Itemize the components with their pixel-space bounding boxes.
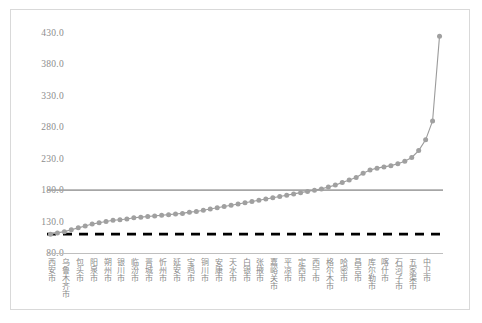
data-point <box>83 223 88 228</box>
x-axis-category-label: 忻州市 <box>158 258 166 282</box>
data-point <box>298 190 303 195</box>
x-axis-category-label: 平凉市 <box>283 258 291 282</box>
x-axis-category-label: 白银市 <box>241 258 249 282</box>
x-axis-category-label: 阳泉市 <box>88 258 96 282</box>
data-point <box>312 188 317 193</box>
data-point <box>243 200 248 205</box>
data-point <box>347 178 352 183</box>
data-point <box>340 180 345 185</box>
data-point <box>354 175 359 180</box>
data-point <box>180 211 185 216</box>
x-axis-category-label: 定西市 <box>297 258 305 282</box>
x-axis-category-label: 包头市 <box>74 258 82 282</box>
data-point <box>423 137 428 142</box>
data-point <box>111 218 116 223</box>
data-point <box>256 198 261 203</box>
data-point <box>388 163 393 168</box>
data-point <box>402 159 407 164</box>
x-axis-category-label: 张掖市 <box>255 258 263 282</box>
data-point <box>159 213 164 218</box>
data-point <box>236 201 241 206</box>
series-markers <box>48 34 442 237</box>
x-axis-category-label: 中卫市 <box>422 258 430 282</box>
data-point <box>305 189 310 194</box>
data-point <box>55 230 60 235</box>
data-point <box>187 210 192 215</box>
x-axis-category-label: 哈密市 <box>338 258 346 282</box>
x-axis-category-label: 安康市 <box>213 258 221 282</box>
x-axis-category-label: 库尔勒市 <box>366 258 374 290</box>
data-point <box>430 119 435 124</box>
data-point <box>138 215 143 220</box>
data-point <box>361 171 366 176</box>
x-axis-category-label: 天水市 <box>227 258 235 282</box>
data-point <box>375 166 380 171</box>
data-point <box>48 232 53 237</box>
x-axis-category-label: 石河子市 <box>394 258 402 290</box>
data-point <box>263 196 268 201</box>
x-axis-category-label: 喀什市 <box>380 258 388 282</box>
data-point <box>215 205 220 210</box>
data-point <box>284 193 289 198</box>
x-axis-category-label: 嘉峪关市 <box>269 258 277 290</box>
x-axis-category-label: 朔州市 <box>102 258 110 282</box>
data-point <box>90 222 95 227</box>
data-point <box>208 207 213 212</box>
data-point <box>131 215 136 220</box>
data-point <box>291 191 296 196</box>
data-point <box>62 229 67 234</box>
data-point <box>152 213 157 218</box>
data-point <box>437 34 442 39</box>
data-point <box>229 203 234 208</box>
x-axis-category-label: 乌鲁木齐市 <box>60 258 68 298</box>
data-point <box>277 194 282 199</box>
x-axis-category-label: 晋城市 <box>144 258 152 282</box>
data-point <box>69 227 74 232</box>
data-point <box>104 219 109 224</box>
x-axis-category-label: 格尔木市 <box>324 258 332 290</box>
x-axis-category-label: 昌吉市 <box>352 258 360 282</box>
data-point <box>76 225 81 230</box>
data-point <box>333 183 338 188</box>
data-point <box>270 195 275 200</box>
x-axis-category-label: 铜川市 <box>199 258 207 282</box>
data-point <box>319 186 324 191</box>
x-axis-category-label: 西宁市 <box>310 258 318 282</box>
data-point <box>166 212 171 217</box>
data-point <box>326 185 331 190</box>
data-point <box>416 148 421 153</box>
data-point <box>117 217 122 222</box>
data-point <box>124 217 129 222</box>
data-point <box>395 161 400 166</box>
x-axis-category-label: 延安市 <box>172 258 180 282</box>
x-axis-category-label: 临汾市 <box>130 258 138 282</box>
data-point <box>249 199 254 204</box>
data-point <box>368 168 373 173</box>
data-point <box>145 214 150 219</box>
x-axis-category-label: 西安市 <box>46 258 54 282</box>
reference-lines <box>47 190 443 234</box>
data-point <box>381 164 386 169</box>
data-point <box>409 155 414 160</box>
data-point <box>97 220 102 225</box>
x-axis-category-label: 宝鸡市 <box>185 258 193 282</box>
x-axis-category-label: 银川市 <box>116 258 124 282</box>
data-point <box>194 209 199 214</box>
data-point <box>201 208 206 213</box>
x-axis-category-label: 五家渠市 <box>408 258 416 290</box>
data-point <box>173 212 178 217</box>
data-point <box>222 204 227 209</box>
